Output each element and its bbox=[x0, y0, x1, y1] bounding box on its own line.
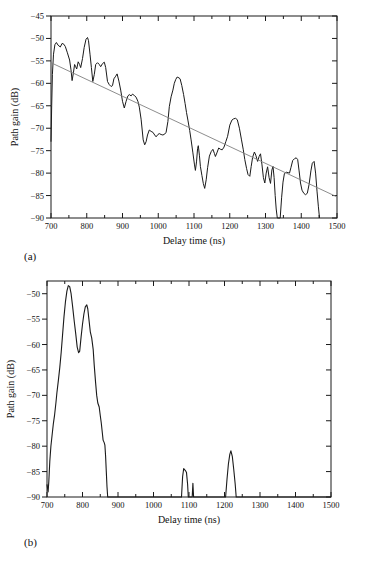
panel-b-label: (b) bbox=[24, 536, 37, 548]
svg-text:1500: 1500 bbox=[329, 221, 346, 231]
plot-frame bbox=[47, 281, 331, 497]
svg-text:−70: −70 bbox=[27, 390, 40, 400]
chart-a-path-gain-vs-delay-time: 700800900100011001200130014001500−45−50−… bbox=[0, 0, 373, 270]
svg-text:−45: −45 bbox=[31, 11, 44, 21]
svg-text:−60: −60 bbox=[31, 78, 44, 88]
svg-text:−50: −50 bbox=[27, 289, 40, 299]
svg-text:1100: 1100 bbox=[181, 500, 198, 510]
svg-text:−65: −65 bbox=[31, 101, 44, 111]
svg-text:800: 800 bbox=[80, 221, 93, 231]
panel-a-label: (a) bbox=[24, 250, 36, 262]
svg-text:1300: 1300 bbox=[252, 500, 269, 510]
svg-text:−85: −85 bbox=[27, 467, 40, 477]
x-axis-title: Delay time (ns) bbox=[158, 514, 220, 526]
measured-path-gain bbox=[51, 38, 320, 219]
svg-text:1500: 1500 bbox=[323, 500, 340, 510]
svg-text:−90: −90 bbox=[27, 492, 40, 502]
svg-text:1300: 1300 bbox=[257, 221, 274, 231]
svg-text:−55: −55 bbox=[27, 314, 40, 324]
svg-text:−80: −80 bbox=[31, 168, 44, 178]
svg-text:−75: −75 bbox=[27, 416, 40, 426]
plot-frame bbox=[51, 16, 337, 218]
y-axis-ticks: −50−55−60−65−70−75−80−85−90 bbox=[27, 289, 331, 502]
svg-text:900: 900 bbox=[112, 500, 125, 510]
svg-text:−65: −65 bbox=[27, 365, 40, 375]
svg-text:−55: −55 bbox=[31, 56, 44, 66]
x-axis-title: Delay time (ns) bbox=[163, 235, 225, 247]
y-axis-ticks: −45−50−55−60−65−70−75−80−85−90 bbox=[31, 11, 337, 223]
svg-text:1200: 1200 bbox=[221, 221, 238, 231]
svg-text:1000: 1000 bbox=[145, 500, 162, 510]
x-axis-ticks: 700800900100011001200130014001500 bbox=[41, 281, 340, 510]
svg-text:1200: 1200 bbox=[216, 500, 233, 510]
smoothed-power-delay-profile bbox=[47, 286, 331, 497]
chart-b-path-gain-vs-delay-time: 700800900100011001200130014001500−50−55−… bbox=[0, 270, 373, 567]
svg-text:−85: −85 bbox=[31, 191, 44, 201]
svg-text:−50: −50 bbox=[31, 33, 44, 43]
svg-text:700: 700 bbox=[45, 221, 58, 231]
svg-text:900: 900 bbox=[116, 221, 129, 231]
svg-text:−75: −75 bbox=[31, 146, 44, 156]
svg-text:−70: −70 bbox=[31, 123, 44, 133]
svg-text:−80: −80 bbox=[27, 441, 40, 451]
figure-path-gain-delay-profiles: 700800900100011001200130014001500−45−50−… bbox=[0, 0, 373, 567]
y-axis-title: Path gain (dB) bbox=[9, 88, 21, 146]
svg-text:700: 700 bbox=[41, 500, 54, 510]
svg-text:1400: 1400 bbox=[287, 500, 304, 510]
svg-text:−60: −60 bbox=[27, 340, 40, 350]
svg-text:−90: −90 bbox=[31, 213, 44, 223]
regression-trend-line bbox=[51, 63, 337, 197]
svg-text:1000: 1000 bbox=[150, 221, 167, 231]
svg-text:1400: 1400 bbox=[293, 221, 310, 231]
y-axis-title: Path gain (dB) bbox=[5, 360, 17, 418]
svg-text:1100: 1100 bbox=[186, 221, 203, 231]
svg-text:800: 800 bbox=[76, 500, 89, 510]
